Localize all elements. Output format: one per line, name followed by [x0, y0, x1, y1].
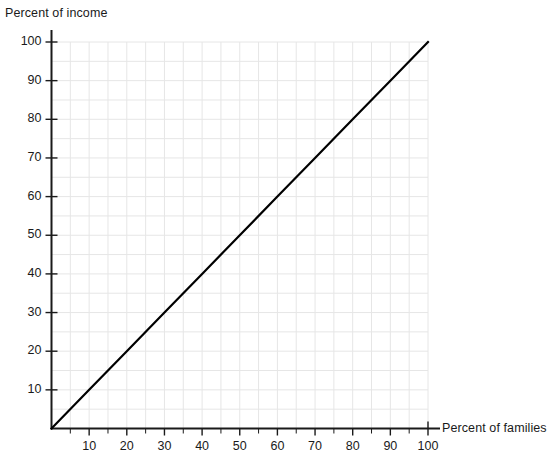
- x-tick-label: 40: [187, 440, 217, 453]
- lorenz-curve-chart: Percent of income Percent of families 10…: [0, 0, 548, 461]
- y-tick-label: 70: [12, 151, 42, 164]
- chart-canvas: [0, 0, 548, 461]
- y-tick-label: 100: [12, 35, 42, 48]
- y-tick-label: 80: [12, 112, 42, 125]
- y-tick-label: 90: [12, 74, 42, 87]
- x-tick-label: 50: [225, 440, 255, 453]
- x-axis-title: Percent of families: [442, 421, 547, 435]
- x-tick-label: 60: [262, 440, 292, 453]
- y-axis-title: Percent of income: [5, 6, 107, 20]
- x-tick-label: 70: [300, 440, 330, 453]
- x-tick-label: 80: [338, 440, 368, 453]
- x-tick-label: 30: [149, 440, 179, 453]
- y-tick-label: 30: [12, 306, 42, 319]
- y-tick-label: 40: [12, 267, 42, 280]
- y-tick-label: 60: [12, 190, 42, 203]
- x-tick-label: 90: [375, 440, 405, 453]
- y-tick-label: 50: [12, 228, 42, 241]
- y-tick-label: 10: [12, 383, 42, 396]
- x-tick-label: 10: [74, 440, 104, 453]
- y-tick-label: 20: [12, 344, 42, 357]
- x-tick-label: 20: [112, 440, 142, 453]
- x-tick-label: 100: [413, 440, 443, 453]
